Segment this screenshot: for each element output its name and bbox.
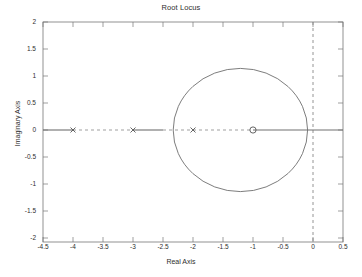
root-locus-figure: Root Locus Imaginary Axis Real Axis 2 1.… [0,0,362,277]
plot-frame [43,22,343,242]
plot-canvas [0,0,362,277]
x-axis-ticks [43,22,343,242]
